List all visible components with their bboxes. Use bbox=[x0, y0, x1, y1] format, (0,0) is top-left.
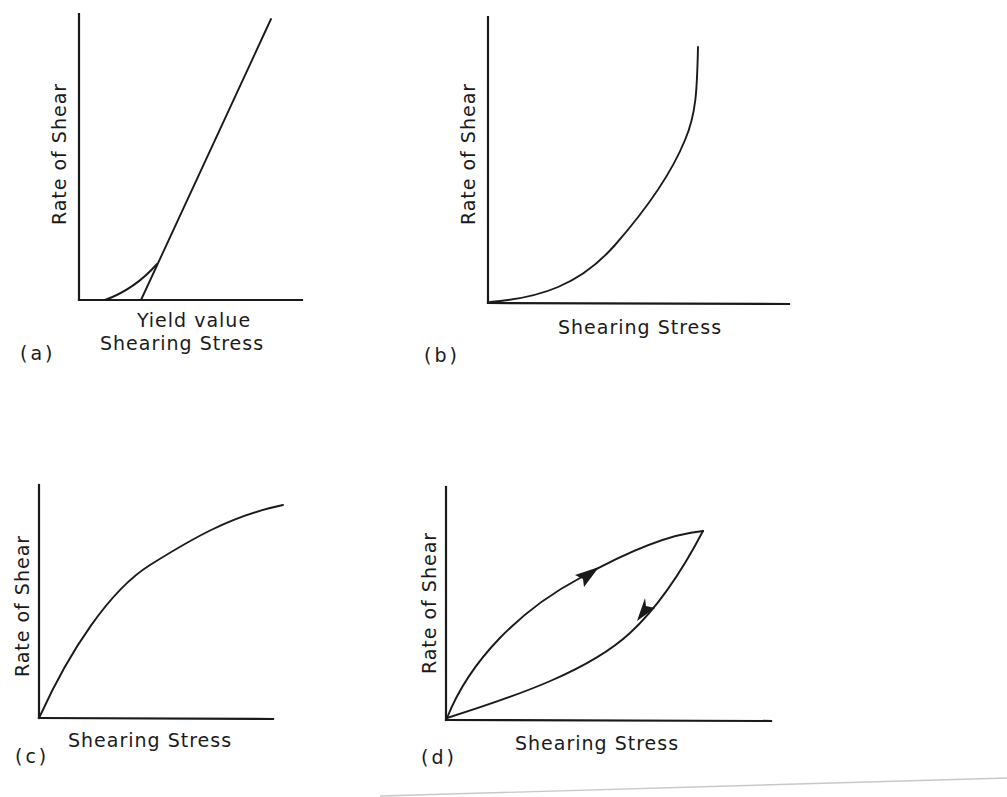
panel-d-tag: (d) bbox=[421, 746, 457, 768]
panel-c: Rate of Shear Shearing Stress (c) bbox=[11, 485, 283, 767]
panel-b-x-axis bbox=[488, 303, 789, 304]
panel-c-x-label: Shearing Stress bbox=[68, 729, 232, 751]
panel-d-up-curve bbox=[447, 531, 703, 718]
panel-d-x-axis bbox=[446, 720, 771, 721]
panel-a-x-label: Shearing Stress bbox=[100, 332, 264, 354]
panel-b: Rate of Shear Shearing Stress (b) bbox=[424, 17, 789, 366]
panel-a-linear-extrapolation bbox=[141, 19, 271, 300]
panel-b-tag: (b) bbox=[424, 344, 460, 366]
panel-d-down-curve bbox=[447, 531, 703, 718]
panel-d-x-label: Shearing Stress bbox=[515, 732, 679, 754]
panel-d-up-arrow-icon bbox=[575, 567, 599, 587]
panel-d-y-label: Rate of Shear bbox=[418, 532, 440, 674]
panel-c-y-label: Rate of Shear bbox=[11, 535, 33, 677]
panel-d: Rate of Shear Shearing Stress (d) bbox=[418, 487, 771, 768]
panel-a: Rate of Shear Yield value Shearing Stres… bbox=[20, 14, 302, 364]
rheology-flow-curves-figure: Rate of Shear Yield value Shearing Stres… bbox=[0, 0, 1007, 797]
panel-c-flow-curve bbox=[40, 505, 283, 716]
panel-c-tag: (c) bbox=[15, 745, 49, 767]
panel-a-yield-annotation: Yield value bbox=[136, 309, 251, 331]
panel-b-flow-curve bbox=[490, 47, 698, 302]
panel-a-tag: (a) bbox=[20, 342, 55, 364]
panel-c-x-axis bbox=[39, 718, 273, 719]
panel-b-y-label: Rate of Shear bbox=[457, 83, 479, 225]
panel-b-x-label: Shearing Stress bbox=[558, 316, 722, 338]
page-edge-line bbox=[380, 778, 1007, 796]
panel-a-y-label: Rate of Shear bbox=[48, 83, 70, 225]
